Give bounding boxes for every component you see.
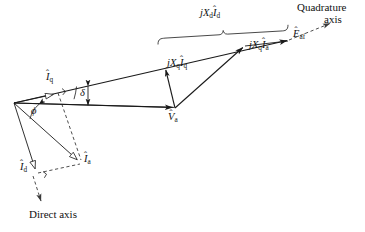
phasor-diagram-figure: ˆEaf jXdˆId jXqˆIa jXqˆIq ˆVa ˆIq ˆId ˆI… bbox=[0, 0, 365, 232]
delta-arc bbox=[74, 87, 77, 100]
phasor-jxq-ia bbox=[175, 48, 243, 109]
label-phi: ϕ bbox=[31, 106, 36, 117]
hat-accent-i-q1: ˆ bbox=[180, 55, 183, 64]
label-v-a: ˆVa bbox=[168, 112, 178, 124]
label-jxd-id-isub: d bbox=[216, 12, 220, 20]
label-i-q: ˆIq bbox=[46, 72, 53, 84]
hat-accent-e: ˆ bbox=[294, 26, 297, 35]
label-jxq-ia: jXqˆIa bbox=[249, 40, 269, 52]
label-jxq-ia-isub: a bbox=[265, 44, 268, 52]
hat-accent-i-a1: ˆ bbox=[262, 37, 265, 46]
phasor-e-af bbox=[14, 41, 287, 104]
label-quadrature-axis-line2: axis bbox=[324, 14, 342, 25]
label-i-a: ˆIa bbox=[84, 154, 91, 166]
hat-accent-i-q2: ˆ bbox=[46, 69, 49, 78]
label-v-a-sub: a bbox=[174, 116, 177, 124]
label-i-d: ˆId bbox=[20, 162, 27, 174]
hat-accent-v: ˆ bbox=[169, 109, 172, 118]
hat-accent-i-d2: ˆ bbox=[20, 159, 23, 168]
construction-line-id-to-ia bbox=[38, 164, 80, 173]
label-jxq-iq-isub: q bbox=[183, 62, 187, 70]
label-jxq-iq: jXqˆIq bbox=[167, 58, 187, 70]
label-i-d-sub: d bbox=[24, 166, 28, 174]
label-i-q-sub: q bbox=[50, 76, 54, 84]
direct-axis-dashed-arrow bbox=[33, 176, 41, 201]
construction-line-iq-to-ia bbox=[58, 93, 81, 160]
phasor-jxq-iq bbox=[166, 70, 175, 108]
hat-accent-i-a2: ˆ bbox=[84, 151, 87, 160]
hat-accent-i-d1: ˆ bbox=[213, 5, 216, 14]
right-angle-marker-id bbox=[43, 172, 47, 178]
phasor-i-q bbox=[14, 95, 53, 104]
phasor-diagram-canvas bbox=[0, 0, 365, 232]
label-e-af: ˆEaf bbox=[293, 29, 305, 41]
label-e-af-sub: af bbox=[299, 33, 305, 41]
label-delta: δ bbox=[80, 88, 85, 99]
label-jxd-id: jXdˆId bbox=[200, 8, 220, 20]
label-quadrature-axis-line1: Quadrature bbox=[297, 2, 346, 13]
label-direct-axis: Direct axis bbox=[29, 209, 77, 220]
